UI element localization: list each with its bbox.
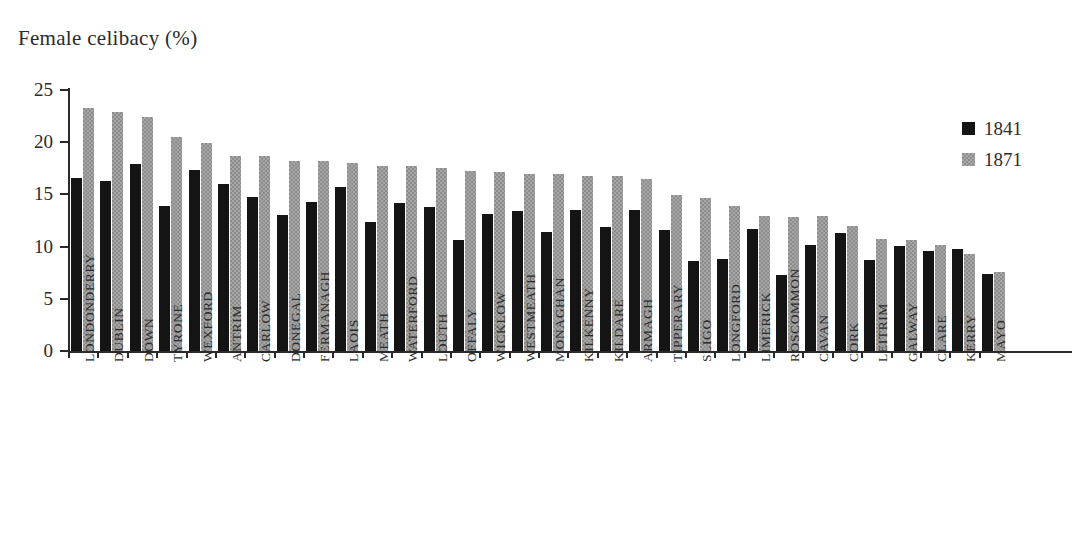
x-axis-tick: [861, 351, 863, 358]
x-axis-tick: [509, 351, 511, 358]
bar-1841: [100, 181, 111, 351]
x-axis-tick-label: MONAGHAN: [552, 277, 568, 362]
bar-1841: [335, 187, 346, 351]
bar-1841: [805, 245, 816, 351]
bar-1841: [512, 211, 523, 351]
x-axis-tick-label: DOWN: [141, 318, 157, 362]
legend-swatch-icon: [962, 153, 975, 166]
legend-swatch-icon: [962, 122, 975, 135]
x-axis-tick: [891, 351, 893, 358]
x-axis-tick-label: DUBLIN: [111, 307, 127, 362]
bar-1841: [629, 210, 640, 351]
bar-1841: [130, 164, 141, 351]
y-axis-tick-label: 20: [13, 131, 53, 153]
x-axis-tick: [215, 351, 217, 358]
bar-1841: [864, 260, 875, 351]
chart-figure: Female celibacy (%) 0510152025 LONDONDER…: [0, 0, 1091, 546]
legend-item-1841: 1841: [962, 118, 1082, 138]
x-axis-tick-label: LOUTH: [435, 313, 451, 362]
y-axis-tick-label: 15: [13, 183, 53, 205]
x-axis-tick: [626, 351, 628, 358]
x-axis-tick-label: ROSCOMMON: [787, 268, 803, 362]
x-axis-tick-label: SLIGO: [699, 319, 715, 362]
x-axis-tick-label: WICKLOW: [493, 291, 509, 362]
bar-1841: [247, 197, 258, 352]
bar-1841: [277, 215, 288, 351]
x-axis-tick-label: TYRONE: [170, 304, 186, 362]
x-axis-tick: [802, 351, 804, 358]
bar-group: [835, 90, 858, 351]
bar-1841: [365, 222, 376, 351]
x-axis-tick: [68, 351, 70, 358]
bar-1871: [142, 117, 153, 351]
y-axis-tick-label: 10: [13, 236, 53, 258]
x-axis-tick-label: ARMAGH: [640, 298, 656, 362]
x-axis-tick: [685, 351, 687, 358]
bar-group: [424, 90, 447, 351]
x-axis-tick-label: CARLOW: [258, 300, 274, 362]
x-axis-tick-label: OFFALY: [464, 308, 480, 362]
bar-1841: [71, 178, 82, 351]
x-axis-tick: [97, 351, 99, 358]
bar-1841: [717, 259, 728, 351]
x-axis-tick-label: CLARE: [934, 315, 950, 362]
bar-1841: [952, 249, 963, 351]
x-axis-tick-label: MAYO: [993, 320, 1009, 362]
bar-1841: [394, 203, 405, 351]
x-axis-tick: [567, 351, 569, 358]
x-axis-tick: [362, 351, 364, 358]
bar-1841: [482, 214, 493, 351]
x-axis-tick-label: TIPPERARY: [670, 284, 686, 362]
x-axis-tick: [714, 351, 716, 358]
x-axis-tick: [744, 351, 746, 358]
x-axis-tick: [421, 351, 423, 358]
chart-legend: 18411871: [962, 118, 1082, 180]
x-axis-tick-label: DONEGAL: [288, 293, 304, 362]
bar-1841: [659, 230, 670, 351]
bar-1841: [776, 275, 787, 351]
bar-1841: [453, 240, 464, 351]
x-axis-tick-label: LIMERICK: [758, 292, 774, 362]
bar-group: [805, 90, 828, 351]
x-axis-tick: [773, 351, 775, 358]
legend-label: 1871: [984, 150, 1022, 169]
x-axis-tick: [156, 351, 158, 358]
x-axis-tick: [949, 351, 951, 358]
x-axis-tick-label: CORK: [846, 322, 862, 362]
x-axis-tick: [244, 351, 246, 358]
x-axis-tick: [332, 351, 334, 358]
x-axis-tick-label: KILKENNY: [581, 287, 597, 362]
x-axis-tick: [127, 351, 129, 358]
bar-1841: [218, 184, 229, 351]
x-axis-tick-label: LAOIS: [346, 319, 362, 362]
x-axis-tick: [597, 351, 599, 358]
bar-1841: [923, 251, 934, 351]
chart-title: Female celibacy (%): [18, 26, 197, 51]
x-axis-tick-label: GALWAY: [905, 302, 921, 362]
x-axis-tick: [656, 351, 658, 358]
x-axis-tick-label: KERRY: [963, 314, 979, 362]
x-axis-tick: [479, 351, 481, 358]
x-axis-tick-label: FERMANAGH: [317, 271, 333, 362]
bar-1841: [894, 246, 905, 351]
x-axis-tick-label: WATERFORD: [405, 276, 421, 362]
x-axis-tick-label: WESTMEATH: [523, 273, 539, 362]
y-axis-tick-label: 0: [13, 340, 53, 362]
x-axis-tick-label: KILDARE: [611, 299, 627, 362]
x-axis-tick-label: WEXFORD: [200, 291, 216, 362]
bar-1841: [688, 261, 699, 351]
legend-label: 1841: [984, 119, 1022, 138]
bar-group: [688, 90, 711, 351]
x-axis-tick-label: CAVAN: [816, 314, 832, 362]
x-axis-tick: [186, 351, 188, 358]
bar-1841: [159, 206, 170, 351]
x-axis-tick-label: ANTRIM: [229, 305, 245, 362]
y-axis-tick-label: 5: [13, 288, 53, 310]
x-axis-tick: [303, 351, 305, 358]
legend-item-1871: 1871: [962, 149, 1082, 169]
bar-1841: [541, 232, 552, 351]
bar-group: [923, 90, 946, 351]
x-axis-tick: [274, 351, 276, 358]
bar-1841: [747, 229, 758, 351]
x-axis-tick: [920, 351, 922, 358]
